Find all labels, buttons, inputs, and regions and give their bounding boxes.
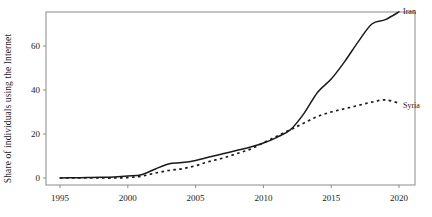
series-line-iran — [60, 12, 399, 178]
x-tick-label: 2010 — [254, 193, 272, 203]
x-tick-label: 2000 — [119, 193, 137, 203]
series-label-iran: Iran — [403, 6, 416, 15]
internet-usage-line-chart: Share of individuals using the Internet … — [0, 0, 432, 217]
x-tick-label: 1995 — [51, 193, 69, 203]
y-tick-label: 40 — [22, 85, 40, 95]
axes-frame — [46, 12, 415, 185]
x-tick-label: 2015 — [322, 193, 340, 203]
y-axis-title: Share of individuals using the Internet — [0, 0, 16, 217]
y-tick-label: 0 — [22, 173, 40, 183]
x-tick-label: 2005 — [187, 193, 205, 203]
y-tick-label: 60 — [22, 41, 40, 51]
series-line-syria — [60, 100, 399, 178]
plot-area — [0, 0, 432, 217]
series-label-syria: Syria — [403, 101, 420, 110]
data-series-group — [60, 12, 399, 178]
plot-frame — [46, 12, 415, 185]
x-tick-label: 2020 — [390, 193, 408, 203]
y-tick-label: 20 — [22, 129, 40, 139]
